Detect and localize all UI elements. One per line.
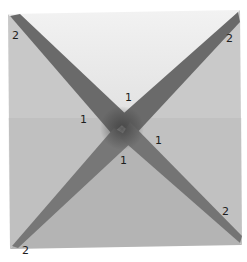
paper-model-photo: 2 2 2 2 1 1 1 1 (0, 0, 247, 262)
label-center-right: 1 (155, 135, 162, 146)
x-fold-model (0, 0, 247, 262)
label-center-top: 1 (125, 92, 132, 103)
label-corner-top-left: 2 (12, 30, 19, 41)
center-shadow (100, 106, 144, 150)
label-corner-top-right: 2 (226, 33, 233, 44)
label-center-left: 1 (80, 114, 87, 125)
label-center-bottom: 1 (120, 155, 127, 166)
label-corner-bottom-right: 2 (222, 206, 229, 217)
label-corner-bottom-left: 2 (22, 245, 29, 256)
